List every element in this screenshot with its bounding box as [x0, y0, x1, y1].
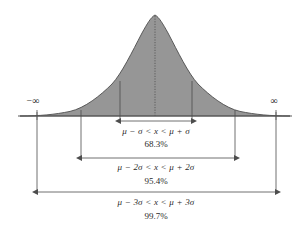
annotation-percent-two-sigma: 95.4% [144, 177, 167, 186]
annotation-expression-one-sigma: μ − σ < x < μ + σ [122, 127, 190, 136]
normal-distribution-figure: −∞ ∞ μ − σ < x < μ + σ 68.3% μ − 2σ < x … [0, 0, 307, 230]
distribution-chart-svg [0, 0, 307, 230]
annotation-percent-one-sigma: 68.3% [144, 140, 167, 149]
annotation-percent-three-sigma: 99.7% [144, 212, 167, 221]
annotation-expression-three-sigma: μ − 3σ < x < μ + 3σ [118, 198, 195, 207]
annotation-expression-two-sigma: μ − 2σ < x < μ + 2σ [118, 163, 195, 172]
axis-label-negative-infinity: −∞ [27, 96, 40, 106]
axis-label-positive-infinity: ∞ [270, 96, 277, 106]
